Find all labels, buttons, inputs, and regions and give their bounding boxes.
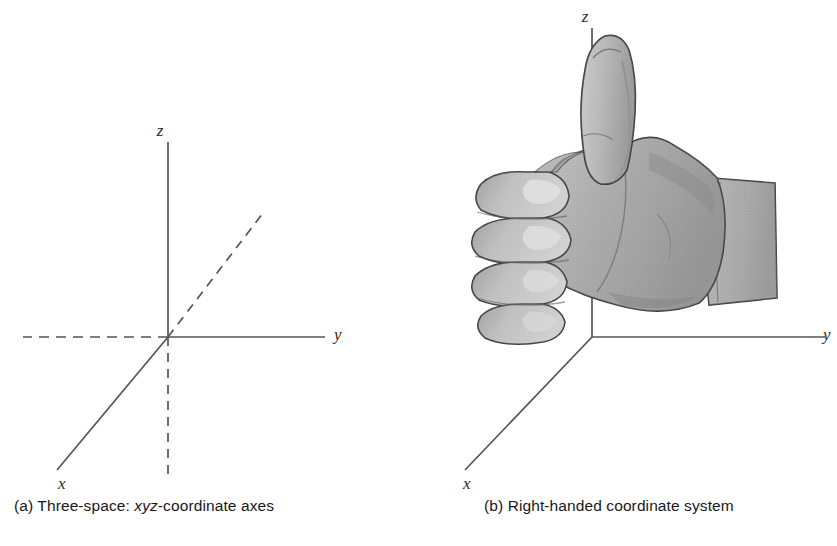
caption-a-italic: xyz xyxy=(134,497,158,514)
axis-label-z-b: z xyxy=(581,7,589,26)
caption-a-suffix: -coordinate axes xyxy=(158,497,274,514)
axes-diagram-b: z y x xyxy=(417,0,837,510)
x-axis-positive xyxy=(57,337,168,470)
caption-panel-a: (a) Three-space: xyz-coordinate axes xyxy=(14,497,274,516)
thumb-texture xyxy=(581,35,635,184)
panel-right-handed-system: z y x (b) Right-handed coordinate system xyxy=(417,0,837,546)
axis-label-z-a: z xyxy=(156,121,164,140)
caption-a-prefix: (a) Three-space: xyxy=(14,497,134,514)
x-axis-negative-dashed xyxy=(168,213,263,337)
right-hand-illustration xyxy=(472,35,777,344)
x-axis-b xyxy=(465,337,592,470)
axis-label-x-b: x xyxy=(462,474,471,493)
panel-three-space-axes: z y x (a) Three-space: xyz-coordinate ax… xyxy=(0,0,420,546)
axis-label-x-a: x xyxy=(57,474,66,493)
caption-panel-b: (b) Right-handed coordinate system xyxy=(484,497,734,516)
axis-label-y-b: y xyxy=(821,325,831,344)
curled-fingers xyxy=(472,172,571,345)
axes-diagram-a: z y x xyxy=(0,0,420,510)
axis-label-y-a: y xyxy=(332,325,342,344)
figure-container: z y x (a) Three-space: xyz-coordinate ax… xyxy=(0,0,837,546)
